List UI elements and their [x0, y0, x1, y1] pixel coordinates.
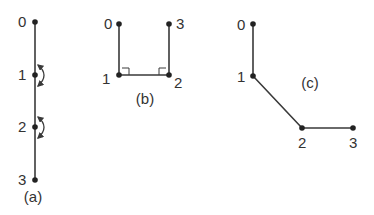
joint-label: 1 — [237, 68, 245, 85]
joint-b-0 — [116, 21, 122, 27]
right-angle-mark — [159, 68, 166, 75]
joint-c-2 — [299, 125, 305, 131]
joint-label: 1 — [102, 70, 110, 87]
joint-label: 1 — [18, 66, 26, 83]
panel-b: 0 1 2 3 (b) — [102, 15, 184, 107]
joint-c-3 — [350, 125, 356, 131]
rotation-arrow-icon — [38, 65, 44, 86]
right-angle-mark — [122, 68, 129, 75]
rotation-arrow-icon — [38, 117, 44, 138]
joint-b-3 — [166, 21, 172, 27]
chain-b-links — [119, 24, 169, 75]
caption-a: (a) — [24, 188, 42, 205]
joint-a-2 — [32, 124, 38, 130]
joint-label: 2 — [298, 134, 306, 151]
joint-label: 0 — [18, 13, 26, 30]
joint-c-0 — [250, 21, 256, 27]
linkage-diagrams: 0 1 2 3 (a) 0 1 2 3 (b) 0 1 2 3 (c) — [0, 0, 374, 215]
panel-a: 0 1 2 3 (a) — [18, 13, 44, 205]
joint-label: 2 — [18, 118, 26, 135]
caption-b: (b) — [136, 90, 154, 107]
joint-label: 0 — [237, 16, 245, 33]
joint-a-0 — [32, 19, 38, 25]
joint-c-1 — [250, 73, 256, 79]
joint-label: 3 — [18, 171, 26, 188]
joint-label: 0 — [104, 15, 112, 32]
joint-a-1 — [32, 72, 38, 78]
joint-label: 2 — [174, 74, 182, 91]
joint-label: 3 — [349, 134, 357, 151]
caption-c: (c) — [301, 74, 319, 91]
joint-b-1 — [116, 72, 122, 78]
joint-b-2 — [166, 72, 172, 78]
panel-c: 0 1 2 3 (c) — [237, 16, 357, 151]
joint-label: 3 — [176, 15, 184, 32]
joint-a-3 — [32, 177, 38, 183]
